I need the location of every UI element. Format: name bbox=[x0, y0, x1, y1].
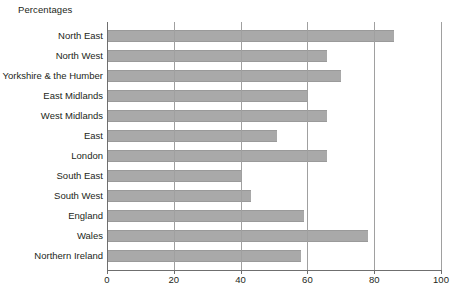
bar bbox=[107, 150, 327, 162]
x-tick-mark-40 bbox=[241, 270, 242, 274]
bar bbox=[107, 210, 304, 222]
x-axis-line bbox=[107, 270, 442, 271]
category-label: Wales bbox=[0, 226, 103, 246]
bar-row bbox=[107, 246, 441, 266]
bar-row bbox=[107, 26, 441, 46]
category-label: East Midlands bbox=[0, 86, 103, 106]
category-label: Yorkshire & the Humber bbox=[0, 66, 103, 86]
x-tick-label-0: 0 bbox=[104, 274, 109, 285]
bar bbox=[107, 130, 277, 142]
bar-row bbox=[107, 226, 441, 246]
bar-row bbox=[107, 106, 441, 126]
gridline-60 bbox=[307, 22, 308, 271]
bar-row bbox=[107, 166, 441, 186]
bar-row bbox=[107, 186, 441, 206]
category-label: London bbox=[0, 146, 103, 166]
x-axis-tick-labels: 020406080100 bbox=[0, 274, 460, 290]
x-tick-label-20: 20 bbox=[169, 274, 180, 285]
bar-row bbox=[107, 66, 441, 86]
x-tick-label-100: 100 bbox=[433, 274, 449, 285]
bar-row bbox=[107, 126, 441, 146]
bar bbox=[107, 30, 394, 42]
bar bbox=[107, 90, 307, 102]
category-axis: North EastNorth WestYorkshire & the Humb… bbox=[0, 22, 103, 271]
category-label: West Midlands bbox=[0, 106, 103, 126]
plot-area bbox=[107, 22, 441, 271]
bar bbox=[107, 50, 327, 62]
category-label: England bbox=[0, 206, 103, 226]
x-tick-mark-0 bbox=[107, 270, 108, 274]
bar bbox=[107, 250, 301, 262]
gridline-40 bbox=[241, 22, 242, 271]
x-tick-mark-80 bbox=[374, 270, 375, 274]
bar bbox=[107, 230, 368, 242]
category-label: North East bbox=[0, 26, 103, 46]
bar-row bbox=[107, 146, 441, 166]
bar-chart: Percentages North EastNorth WestYorkshir… bbox=[0, 0, 460, 295]
x-tick-label-80: 80 bbox=[369, 274, 380, 285]
gridline-100 bbox=[441, 22, 442, 271]
x-tick-label-60: 60 bbox=[302, 274, 313, 285]
bar bbox=[107, 70, 341, 82]
category-label: North West bbox=[0, 46, 103, 66]
category-label: South West bbox=[0, 186, 103, 206]
x-tick-label-40: 40 bbox=[235, 274, 246, 285]
x-tick-mark-20 bbox=[174, 270, 175, 274]
gridline-80 bbox=[374, 22, 375, 271]
category-label: South East bbox=[0, 166, 103, 186]
category-label: Northern Ireland bbox=[0, 246, 103, 266]
bar-row bbox=[107, 86, 441, 106]
bar-row bbox=[107, 46, 441, 66]
y-axis-line bbox=[107, 22, 108, 271]
x-tick-mark-100 bbox=[441, 270, 442, 274]
category-label: East bbox=[0, 126, 103, 146]
chart-title: Percentages bbox=[18, 4, 72, 15]
gridline-20 bbox=[174, 22, 175, 271]
bar bbox=[107, 190, 251, 202]
bar-row bbox=[107, 206, 441, 226]
bar bbox=[107, 110, 327, 122]
x-tick-mark-60 bbox=[307, 270, 308, 274]
bar-series bbox=[107, 22, 441, 271]
